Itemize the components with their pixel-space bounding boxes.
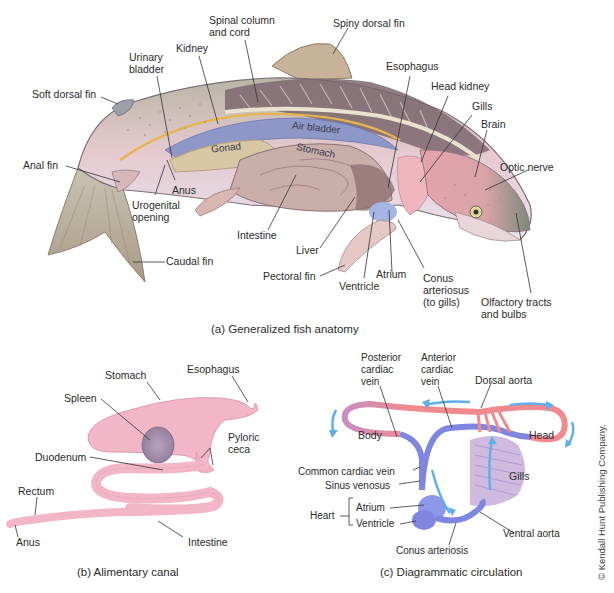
caption-diagrammatic-circulation: (c) Diagrammatic circulation: [380, 566, 523, 578]
fish-illustration: [48, 28, 531, 293]
label-pectoral-fin: Pectoral fin: [263, 270, 316, 282]
label-caudal-fin: Caudal fin: [166, 255, 213, 267]
label-anus-b: Anus: [16, 536, 40, 548]
label-kidney: Kidney: [176, 42, 208, 54]
label-common-cardiac-vein: Common cardiac vein: [298, 466, 395, 478]
label-olfactory-tracts-and-bulbs: Olfactory tracts and bulbs: [481, 296, 552, 320]
label-rectum: Rectum: [18, 485, 54, 497]
label-ventricle-a: Ventricle: [339, 280, 379, 292]
label-sinus-venosus: Sinus venosus: [325, 480, 390, 492]
label-anterior-cardiac-vein: Anterior cardiac vein: [421, 352, 456, 388]
caption-generalized-fish-anatomy: (a) Generalized fish anatomy: [211, 323, 359, 335]
label-soft-dorsal-fin: Soft dorsal fin: [32, 88, 96, 100]
label-liver: Liver: [296, 244, 319, 256]
label-conus-arteriosis: Conus arteriosis: [396, 545, 468, 557]
label-gills-c: Gills: [509, 470, 529, 482]
label-duodenum: Duodenum: [35, 451, 86, 463]
label-esophagus-b: Esophagus: [187, 363, 240, 375]
label-optic-nerve: Optic nerve: [500, 161, 554, 173]
label-head: Head: [529, 429, 554, 441]
label-pyloric-ceca: Pyloric ceca: [228, 431, 260, 455]
label-urogenital-opening: Urogenital opening: [132, 199, 180, 223]
label-spleen: Spleen: [64, 392, 97, 404]
label-spiny-dorsal-fin: Spiny dorsal fin: [333, 17, 405, 29]
label-body: Body: [358, 429, 382, 441]
label-atrium-c: Atrium: [356, 502, 385, 514]
label-intestine-a: Intestine: [237, 229, 277, 241]
label-urinary-bladder: Urinary bladder: [129, 51, 164, 75]
label-spinal-column-and-cord: Spinal column and cord: [209, 14, 275, 38]
label-dorsal-aorta: Dorsal aorta: [475, 374, 532, 386]
label-anal-fin: Anal fin: [23, 159, 58, 171]
label-brain: Brain: [481, 118, 506, 130]
fish-anatomy-figure: Spinal column and cord Spiny dorsal fin …: [0, 0, 614, 593]
label-stomach-b: Stomach: [105, 369, 146, 381]
caption-alimentary-canal: (b) Alimentary canal: [77, 566, 179, 578]
label-conus-arteriosus: Conus arteriosus (to gills): [423, 272, 469, 308]
label-intestine-b: Intestine: [188, 536, 228, 548]
label-gills: Gills: [472, 100, 492, 112]
label-ventricle-c: Ventricle: [356, 518, 394, 530]
label-heart: Heart: [310, 510, 334, 522]
label-anus-a: Anus: [172, 184, 196, 196]
label-ventral-aorta: Ventral aorta: [503, 528, 560, 540]
label-esophagus: Esophagus: [386, 60, 439, 72]
label-posterior-cardiac-vein: Posterior cardiac vein: [361, 352, 401, 388]
copyright-notice: © Kendall Hunt Publishing Company.: [596, 424, 607, 580]
label-head-kidney: Head kidney: [431, 80, 489, 92]
label-atrium-a: Atrium: [376, 268, 406, 280]
